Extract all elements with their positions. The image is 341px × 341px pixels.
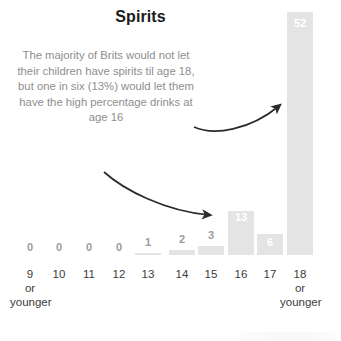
annotation-arrows [0, 0, 341, 341]
arrow-to-18-bar-icon [194, 106, 279, 131]
arrow-to-16-bar-icon [104, 172, 209, 215]
source-watermark [239, 332, 335, 340]
chart-container: Spirits The majority of Brits would not … [0, 0, 341, 341]
